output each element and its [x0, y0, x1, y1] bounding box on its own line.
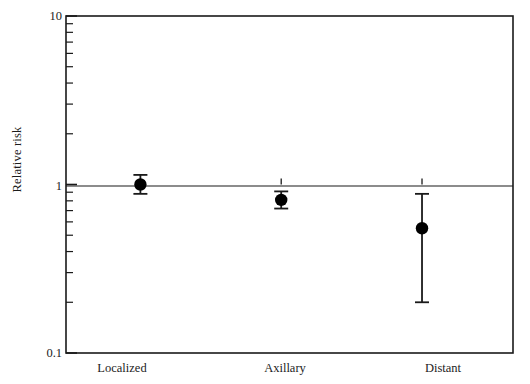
x-tick-label-distant: Distant: [425, 361, 461, 376]
relative-risk-chart: Relative risk 10 1 0.1 Localized Axillar…: [0, 0, 530, 384]
x-tick-label-localized: Localized: [97, 361, 146, 376]
data-point-marker: [134, 178, 146, 190]
x-tick-label-axillary: Axillary: [264, 361, 306, 376]
data-point-marker: [416, 222, 428, 234]
y-axis-tick-labels: 10 1 0.1: [22, 0, 62, 384]
plot-area: [0, 0, 530, 384]
y-tick-label-10: 10: [28, 9, 62, 24]
y-tick-label-0.1: 0.1: [28, 346, 62, 361]
data-point-marker: [275, 194, 287, 206]
y-tick-label-1: 1: [28, 179, 62, 194]
plot-frame: [66, 16, 513, 353]
